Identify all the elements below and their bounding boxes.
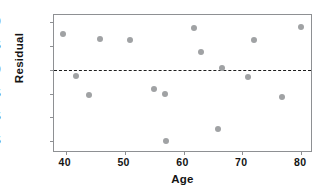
residual-scatter-plot-figure: 1050–5–15–154050607080 Age Residual [0,0,319,195]
y-axis-tick-label: 10 [0,15,1,27]
y-axis-tick [50,70,54,71]
data-point [191,25,197,31]
y-axis-tick-label: 5 [0,39,1,51]
data-point [60,31,66,37]
x-axis-tick [125,151,126,155]
x-axis-tick [242,151,243,155]
x-axis-tick-label: 50 [104,156,144,168]
x-axis-tick-label: 80 [280,156,319,168]
data-point [215,126,221,132]
data-point [127,37,133,43]
data-point [162,91,168,97]
x-axis-tick-label: 60 [163,156,203,168]
data-point [198,49,204,55]
y-axis-tick [50,22,54,23]
y-axis-tick-label: –15 [0,134,1,146]
data-point [251,37,257,43]
y-axis-tick-label: –5 [0,87,1,99]
y-axis-tick-label: –15 [0,110,1,122]
y-axis-tick [50,46,54,47]
plot-area [53,14,312,152]
data-point [73,73,79,79]
x-axis-tick [66,151,67,155]
data-point [279,94,285,100]
data-point [151,86,157,92]
x-axis-tick-label: 70 [221,156,261,168]
data-point [245,74,251,80]
x-axis-tick [184,151,185,155]
data-point [86,92,92,98]
data-point [298,24,304,30]
y-axis-tick [50,141,54,142]
y-axis-tick-label: 0 [0,63,1,75]
y-axis-title: Residual [13,8,25,108]
data-point [97,36,103,42]
data-point [163,138,169,144]
zero-reference-line [54,70,311,71]
x-axis-title: Age [53,173,312,185]
x-axis-tick-label: 40 [45,156,85,168]
y-axis-tick [50,117,54,118]
x-axis-tick [301,151,302,155]
y-axis-tick [50,94,54,95]
